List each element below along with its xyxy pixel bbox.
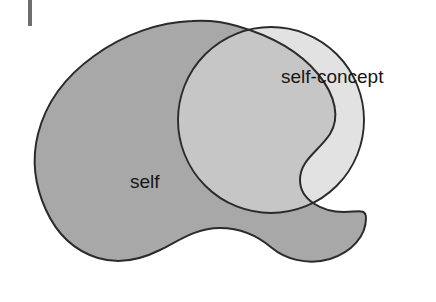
venn-diagram: self self-concept [0, 0, 436, 302]
self-region-label: self [130, 171, 160, 192]
self-concept-region-label: self-concept [281, 66, 384, 87]
margin-tick-icon [28, 0, 32, 26]
